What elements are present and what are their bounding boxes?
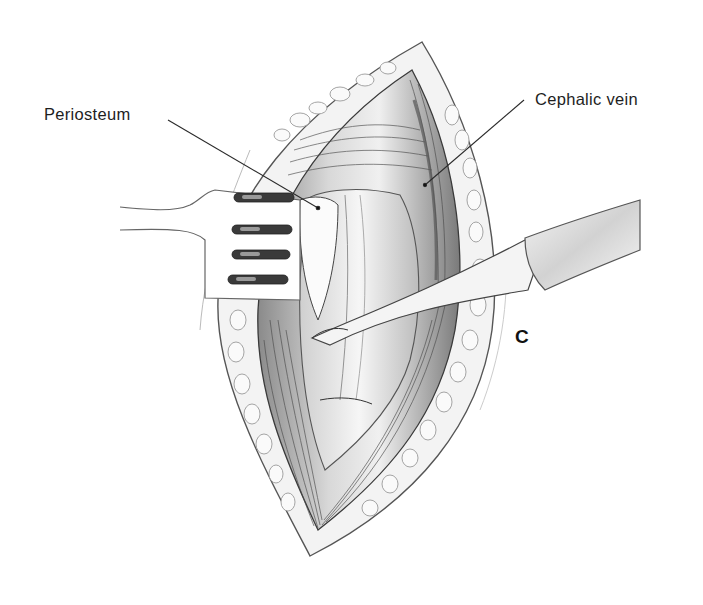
surgical-figure: Periosteum Cephalic vein C [0, 0, 703, 605]
cephalic-vein-label: Cephalic vein [535, 90, 638, 109]
panel-letter: C [515, 326, 529, 348]
periosteum-leader-dot [316, 206, 320, 210]
periosteum-label: Periosteum [44, 105, 130, 124]
rake-retractor [120, 190, 300, 300]
cephalic-vein-leader-dot [423, 183, 426, 186]
